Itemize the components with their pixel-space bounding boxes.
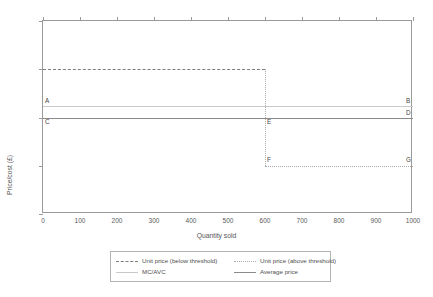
legend-label-average-price: Average price: [260, 269, 298, 275]
x-tick-label-600: 600: [260, 218, 271, 225]
x-tick-mark-900: [376, 17, 377, 21]
annotation-b: B: [406, 98, 410, 104]
x-tick-mark-1000: [413, 17, 414, 21]
legend-swatch-dashed-icon: [116, 261, 138, 262]
legend-item-average-price: Average price: [234, 269, 337, 275]
x-tick-mark-800: [339, 17, 340, 21]
legend-label-unit-price-below-threshold: Unit price (below threshold): [142, 258, 217, 264]
x-tick-label-400: 400: [186, 218, 197, 225]
plot-inner: 3.50 4.00 4.50 5.00 5.50 0 100 200: [43, 21, 411, 212]
x-tick-mark-500: [228, 17, 229, 21]
x-tick-label-100: 100: [75, 218, 86, 225]
x-tick-mark-0: [43, 17, 44, 21]
annotation-d: D: [406, 110, 411, 116]
x-tick-label-900: 900: [371, 218, 382, 225]
y-tick-mark-4-00: [39, 166, 43, 167]
x-tick-label-300: 300: [149, 218, 160, 225]
x-tick-mark-700: [302, 17, 303, 21]
x-tick-mark-300: [154, 17, 155, 21]
x-tick-label-0: 0: [41, 218, 45, 225]
x-tick-mark-100: [80, 17, 81, 21]
x-tick-label-1000: 1000: [406, 218, 420, 225]
legend-grid: Unit price (below threshold) Unit price …: [116, 256, 325, 278]
x-axis-title: Quantity sold: [0, 232, 433, 239]
chart-legend: Unit price (below threshold) Unit price …: [110, 251, 331, 282]
x-tick-label-200: 200: [112, 218, 123, 225]
legend-swatch-solid-dark-icon: [234, 272, 256, 273]
series-unit-price-below-threshold: [43, 69, 265, 70]
legend-swatch-dotted-icon: [234, 261, 256, 262]
y-tick-mark-5-50: [39, 21, 43, 22]
legend-label-unit-price-above-threshold: Unit price (above threshold): [260, 258, 336, 264]
legend-label-mc-avc: MC/AVC: [142, 269, 166, 275]
y-tick-mark-3-50: [39, 214, 43, 215]
annotation-e: E: [267, 119, 271, 125]
x-tick-mark-400: [191, 17, 192, 21]
x-tick-label-500: 500: [223, 218, 234, 225]
x-tick-label-800: 800: [334, 218, 345, 225]
x-tick-mark-600: [265, 17, 266, 21]
legend-swatch-solid-light-icon: [116, 272, 138, 273]
legend-item-unit-price-below-threshold: Unit price (below threshold): [116, 258, 234, 264]
chart-figure: Price/cost (£) 3.50 4.00 4.50 5.00 5.50: [0, 0, 433, 297]
series-average-price: [43, 118, 413, 119]
x-tick-label-700: 700: [297, 218, 308, 225]
annotation-a: A: [45, 98, 49, 104]
legend-item-unit-price-above-threshold: Unit price (above threshold): [234, 258, 337, 264]
legend-item-mc-avc: MC/AVC: [116, 269, 234, 275]
plot-area: 3.50 4.00 4.50 5.00 5.50 0 100 200: [42, 20, 412, 213]
series-unit-price-above-threshold: [265, 166, 413, 167]
y-axis-title: Price/cost (£): [6, 115, 13, 235]
annotation-f: F: [267, 157, 271, 163]
x-tick-mark-200: [117, 17, 118, 21]
annotation-g: G: [406, 157, 411, 163]
annotation-c: C: [45, 119, 50, 125]
series-mc-avc: [43, 106, 413, 107]
